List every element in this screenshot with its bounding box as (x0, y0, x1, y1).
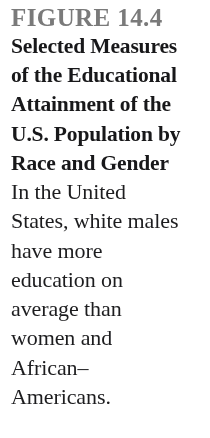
figure-description: In the United States, white males have m… (11, 177, 209, 411)
figure-description-line: African– (11, 353, 209, 382)
figure-description-line: States, white males (11, 206, 209, 235)
figure-title-line: Selected Measures (11, 32, 207, 61)
figure-title-line: Race and Gender (11, 149, 207, 178)
figure-description-line: average than (11, 294, 209, 323)
figure-description-line: In the United (11, 177, 209, 206)
figure-caption-block: FIGURE 14.4 Selected Measures of the Edu… (0, 0, 210, 438)
figure-title-line: of the Educational (11, 61, 207, 90)
figure-description-line: women and (11, 323, 209, 352)
figure-description-line: education on (11, 265, 209, 294)
figure-description-line: have more (11, 236, 209, 265)
figure-title: Selected Measures of the Educational Att… (11, 32, 207, 178)
figure-description-line: Americans. (11, 382, 209, 411)
figure-number-label: FIGURE 14.4 (11, 3, 163, 32)
figure-title-line: Attainment of the (11, 90, 207, 119)
figure-title-line: U.S. Population by (11, 120, 207, 149)
